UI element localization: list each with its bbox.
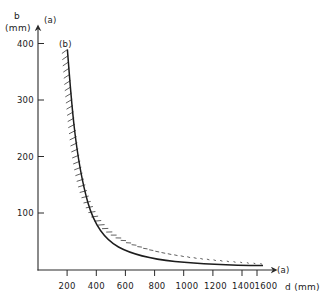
y-tick-label-300: 300 <box>17 95 34 105</box>
y-tick-label-100: 100 <box>17 208 34 218</box>
x-axis-label: d (mm) <box>285 282 320 292</box>
y-axis-tick-labels: 100 200 300 400 <box>17 39 34 219</box>
x-axis-marker-a-label: (a) <box>277 265 290 275</box>
chart-plot: 100 200 300 400 200 400 600 800 1000 120… <box>0 0 321 301</box>
curve-hatching <box>62 49 262 264</box>
y-axis-marker-a-label: (a) <box>44 15 57 25</box>
x-tick-label-1400: 1400 <box>232 281 255 291</box>
x-tick-label-1600: 1600 <box>255 281 278 291</box>
boundary-curve <box>67 50 263 266</box>
x-axis-ticks <box>67 270 257 276</box>
x-tick-label-800: 800 <box>148 281 165 291</box>
x-tick-label-1000: 1000 <box>176 281 199 291</box>
x-tick-label-600: 600 <box>117 281 134 291</box>
x-tick-label-1200: 1200 <box>204 281 227 291</box>
y-axis-label-symbol: b <box>14 11 20 21</box>
x-tick-label-400: 400 <box>88 281 105 291</box>
y-axis-ticks <box>38 44 44 214</box>
y-axis-label-unit: (mm) <box>5 23 31 33</box>
figure-container: 100 200 300 400 200 400 600 800 1000 120… <box>0 0 321 301</box>
y-tick-label-200: 200 <box>17 152 34 162</box>
x-axis-tick-labels: 200 400 600 800 1000 1200 1400 1600 <box>59 281 278 291</box>
y-tick-label-400: 400 <box>17 39 34 49</box>
x-tick-label-200: 200 <box>59 281 76 291</box>
curve-marker-b-label: (b) <box>59 39 72 49</box>
